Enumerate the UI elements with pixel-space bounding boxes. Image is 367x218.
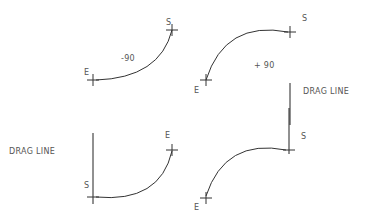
end-point-cross [200,74,212,86]
start-label: S [302,14,307,23]
panel-top-left: S E -90 [84,18,178,86]
arc-curve [206,30,288,80]
arc-curve [96,151,172,198]
start-point-cross [284,26,296,38]
start-label: S [301,132,306,141]
angle-label: + 90 [254,61,275,70]
drag-line-label: DRAG LINE [9,147,55,156]
arc-curve [206,148,286,196]
angle-label: -90 [121,54,135,63]
end-point-cross [200,192,212,204]
end-label: E [165,131,170,140]
drag-line-label: DRAG LINE [303,87,349,96]
start-label: S [84,181,89,190]
start-label: S [166,18,171,27]
end-point-cross [166,144,178,156]
end-label: E [194,86,199,95]
end-label: E [84,68,89,77]
panel-bottom-left: S E DRAG LINE [9,131,178,204]
arc-direction-diagram: S E -90 S E + 90 DRAG LINE S E DRAG [0,0,367,218]
panel-top-right: S E + 90 DRAG LINE [194,14,349,125]
end-label: E [194,203,199,212]
